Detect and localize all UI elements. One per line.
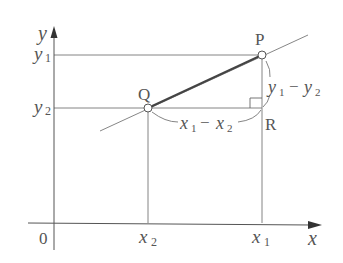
svg-text:−: − [200,113,210,132]
x1-tick-label: x 1 [251,226,270,249]
segment-qp [148,55,262,108]
svg-text:y: y [302,77,312,97]
svg-text:1: 1 [264,235,270,249]
y-axis-label: y [36,22,47,45]
point-q-label: Q [138,85,150,104]
svg-text:2: 2 [45,104,51,118]
point-q [144,104,152,112]
svg-text:x: x [179,113,188,133]
point-r-label: R [265,115,277,134]
x2-tick-label: x 2 [138,226,157,249]
svg-text:x: x [251,226,261,247]
right-angle-marker [250,98,262,108]
svg-text:1: 1 [191,122,197,134]
svg-text:x: x [138,226,148,247]
horizontal-diff-label: x 1 − x 2 [179,113,233,134]
svg-text:−: − [289,77,299,96]
slope-diagram: y x 0 y 1 y 2 x 2 x 1 Q P R x 1 − x 2 y … [0,0,343,263]
y2-tick-label: y 2 [32,96,51,118]
y1-tick-label: y 1 [32,43,51,65]
point-p-label: P [255,30,264,49]
point-p [258,51,266,59]
svg-text:1: 1 [279,86,285,98]
svg-text:y: y [266,77,276,97]
svg-text:x: x [215,113,224,133]
svg-text:2: 2 [315,86,321,98]
svg-text:2: 2 [227,122,233,134]
svg-text:y: y [32,96,43,117]
svg-text:y: y [32,43,43,64]
y-axis-arrow-icon [51,26,58,38]
svg-text:2: 2 [151,235,157,249]
svg-text:1: 1 [45,51,51,65]
origin-label: 0 [39,229,48,248]
x-axis-label: x [307,227,317,249]
vertical-diff-label: y 1 − y 2 [266,77,321,98]
x-axis [28,223,312,225]
